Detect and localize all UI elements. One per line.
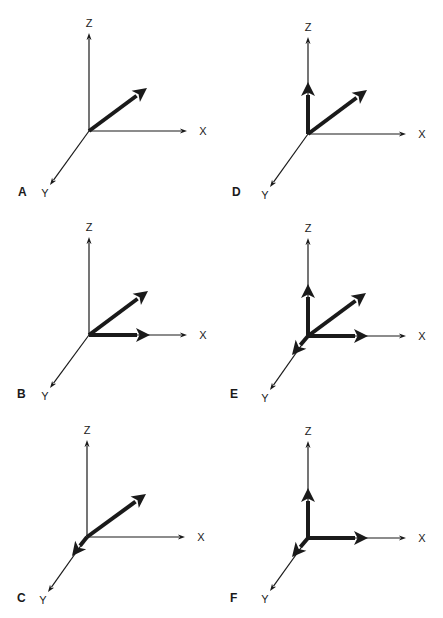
z-component-vector-arrow [301,82,315,134]
y-component-vector-arrow [72,537,87,556]
x-axis-arrow [89,129,187,134]
figure-caption [20,608,440,618]
x-axis-label: X [199,329,207,341]
z-axis-label: Z [305,425,312,437]
panel-label: D [232,185,241,199]
y-axis-label: Y [41,390,49,402]
y-component-vector-arrow [292,538,308,557]
y-axis-arrow [50,335,89,388]
y-component-vector-arrow [292,336,308,355]
panel-label: B [17,387,26,401]
panel-c: ZXYC [17,424,205,606]
y-axis-label: Y [261,392,269,404]
panel-label: F [230,591,237,605]
resultant-vector-arrow [89,291,148,335]
z-component-vector-arrow [301,284,315,336]
z-axis-label: Z [86,221,93,233]
z-component-vector-arrow [301,488,315,538]
panel-e: ZXYE [230,222,426,404]
z-axis-label: Z [86,17,93,29]
panel-f: ZXYF [230,425,426,605]
z-axis-arrow [85,440,90,537]
x-axis-label: X [199,125,207,137]
y-axis-arrow [270,134,308,187]
panel-a: ZXYA [18,17,207,199]
x-axis-arrow [87,535,185,540]
x-axis-label: X [418,532,426,544]
y-axis-arrow [50,131,89,185]
y-axis-label: Y [261,593,269,605]
panel-label: C [17,591,26,605]
z-axis-label: Z [84,424,91,436]
panel-b: ZXYB [17,221,207,402]
resultant-vector-arrow [89,88,147,131]
z-axis-label: Z [305,21,312,33]
vector-components-figure: ZXYAZXYDZXYBZXYEZXYCZXYF [0,0,443,618]
x-axis-arrow [308,132,406,137]
y-axis-label: Y [39,594,47,606]
z-axis-label: Z [305,222,312,234]
z-axis-arrow [87,237,92,335]
resultant-vector-arrow [308,90,367,134]
resultant-vector-arrow [87,494,146,537]
x-component-vector-arrow [308,531,368,545]
resultant-vector-arrow [308,293,366,336]
y-axis-label: Y [261,189,269,201]
panel-label: A [18,185,27,199]
y-axis-label: Y [41,187,49,199]
x-axis-label: X [197,531,205,543]
x-axis-label: X [418,128,426,140]
panel-label: E [230,387,238,401]
x-axis-label: X [418,330,426,342]
z-axis-arrow [87,33,92,131]
panel-d: ZXYD [232,21,426,201]
